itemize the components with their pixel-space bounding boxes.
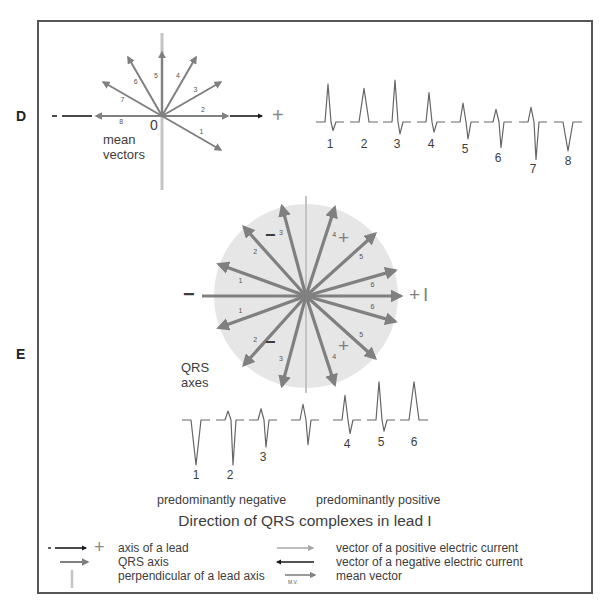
qrs-axes-diagram: 112233445566 (202, 196, 401, 393)
d-caption-line1: mean (103, 132, 145, 147)
qrs-complex-label: 7 (530, 162, 537, 176)
positive-region-sign-top: + (338, 227, 349, 249)
qrs-complex-label: 1 (193, 468, 200, 482)
legend-label-mean-vector: mean vector (336, 569, 402, 583)
qrs-axis-label: 3 (279, 229, 283, 236)
mean-vector-1 (162, 116, 221, 150)
qrs-axis-label: 6 (371, 303, 375, 310)
qrs-complex-label: 1 (327, 137, 334, 151)
e-axis-minus: − (183, 283, 195, 306)
qrs-complex-label: 3 (394, 137, 401, 151)
qrs-complex (417, 93, 445, 133)
e-title: Direction of QRS complexes in lead I (0, 512, 610, 530)
mean-vector-label: 2 (201, 106, 205, 113)
legend-label-positive-vector: vector of a positive electric current (336, 541, 518, 555)
e-axis-plus-sign: + (409, 284, 420, 305)
group-label-negative: predominantly negative (157, 493, 286, 507)
e-axis-plus: +I (409, 284, 428, 306)
qrs-axis-label: 2 (253, 248, 257, 255)
qrs-complex (291, 404, 319, 445)
qrs-axis-label: 5 (359, 331, 363, 338)
qrs-complex (216, 411, 244, 465)
qrs-axis-label: 5 (359, 253, 363, 260)
qrs-complex-label: 4 (428, 137, 435, 151)
qrs-complex-label: 5 (378, 435, 385, 449)
mean-vector-label: 7 (121, 96, 125, 103)
mean-vector-label: 5 (154, 72, 158, 79)
e-caption: QRS axes (181, 360, 209, 390)
qrs-complex-label: 6 (495, 151, 502, 165)
qrs-complex (451, 103, 479, 139)
legend-lead-plus: + (94, 537, 105, 558)
qrs-axis-label: 4 (332, 353, 336, 360)
qrs-complex (400, 382, 428, 420)
qrs-complex (519, 107, 547, 159)
legend-label-negative-vector: vector of a negative electric current (336, 555, 523, 569)
e-caption-line2: axes (181, 375, 209, 390)
qrs-axis-label: 2 (253, 336, 257, 343)
legend-label-perpendicular: perpendicular of a lead axis (118, 569, 265, 583)
qrs-complex-label: 5 (462, 142, 469, 156)
qrs-complex-label: 2 (361, 137, 368, 151)
d-origin-label: 0 (150, 117, 158, 133)
d-axis-plus: + (272, 104, 284, 127)
d-caption-line2: vectors (103, 147, 145, 162)
qrs-complex (350, 88, 378, 122)
e-axis-lead-label: I (423, 284, 428, 305)
qrs-complex (316, 84, 344, 130)
d-caption: mean vectors (103, 132, 145, 162)
qrs-complex (484, 109, 512, 147)
e-caption-line1: QRS (181, 360, 209, 375)
qrs-axis-label: 1 (238, 307, 242, 314)
positive-region-sign-bottom: + (338, 335, 349, 357)
mean-vector-label: 1 (200, 128, 204, 135)
qrs-complex-label: 6 (411, 435, 418, 449)
qrs-complex (554, 122, 582, 151)
qrs-axis-label: 4 (332, 231, 336, 238)
qrs-complex-label: 8 (565, 154, 572, 168)
mean-vector-label: 6 (134, 78, 138, 85)
qrs-complex-label: 2 (227, 468, 234, 482)
mean-vector-tag: M.V. (288, 579, 298, 585)
mean-vector-label: 3 (194, 86, 198, 93)
qrs-complex (249, 409, 277, 447)
figure: D E 12345678 12345678 (0, 0, 610, 607)
qrs-complex (182, 420, 210, 465)
negative-region-sign-top: − (265, 225, 276, 246)
mean-vectors-diagram: 12345678 (52, 33, 262, 190)
qrs-axis-label: 6 (371, 281, 375, 288)
d-qrs-complexes: 12345678 (316, 80, 582, 176)
qrs-complex-label: 3 (260, 450, 267, 464)
negative-region-sign-bottom: − (265, 332, 276, 353)
e-qrs-complexes: 123456 (182, 382, 428, 482)
qrs-complex-label: 4 (344, 437, 351, 451)
qrs-complex (333, 395, 361, 433)
qrs-axis-label: 3 (279, 355, 283, 362)
legend-label-qrs-axis: QRS axis (118, 555, 169, 569)
legend-label-lead-axis: axis of a lead (118, 541, 189, 555)
qrs-axis-label: 1 (238, 277, 242, 284)
mean-vector-label: 4 (176, 72, 180, 79)
qrs-complex (367, 382, 395, 432)
group-label-positive: predominantly positive (316, 493, 440, 507)
qrs-complex (383, 80, 411, 134)
mean-vector-label: 8 (119, 118, 123, 125)
